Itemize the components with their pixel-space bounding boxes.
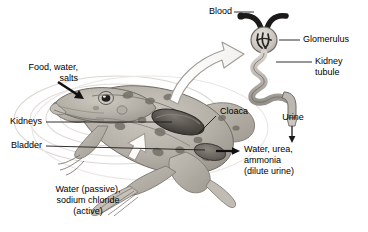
urine-arrow — [289, 126, 296, 143]
blood-vessel-end — [237, 12, 244, 19]
label-kidney-tubule: Kidneytubule — [315, 56, 343, 78]
label-urine: Urine — [272, 112, 314, 123]
rear-foot — [206, 180, 236, 208]
label-water-urea-line3: (dilute urine) — [244, 166, 294, 176]
label-water-sodium-line2: sodium chloride — [56, 195, 119, 205]
label-food-water-salts-line2: salts — [59, 73, 78, 83]
label-bladder: Bladder — [0, 140, 42, 151]
label-glomerulus: Glomerulus — [303, 34, 349, 45]
label-food-water-salts-line1: Food, water, — [28, 62, 78, 72]
label-kidneys: Kidneys — [0, 116, 42, 127]
label-cloaca: Cloaca — [220, 106, 248, 117]
label-water-urea-ammonia: Water, urea,ammonia(dilute urine) — [244, 144, 294, 177]
frog-eye — [99, 92, 114, 105]
frog-osmoregulation-figure: Food, water,salts Kidneys Bladder Water … — [0, 0, 368, 232]
label-water-urea-line2: ammonia — [244, 155, 281, 165]
callout-arrow — [170, 42, 244, 104]
label-water-sodium-chloride: Water (passive),sodium chloride(active) — [28, 184, 148, 217]
label-kidney-tubule-line1: Kidney — [315, 56, 343, 66]
label-water-sodium-line3: (active) — [73, 206, 103, 216]
label-water-urea-line1: Water, urea, — [244, 144, 293, 154]
bowmans-capsule — [251, 27, 277, 53]
label-water-sodium-line1: Water (passive), — [55, 184, 120, 194]
label-food-water-salts: Food, water,salts — [4, 62, 78, 84]
label-kidney-tubule-line2: tubule — [315, 67, 340, 77]
label-blood: Blood — [186, 6, 232, 17]
